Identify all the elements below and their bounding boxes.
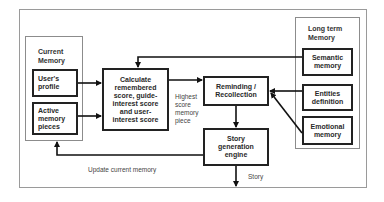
connector-lines (0, 0, 384, 202)
